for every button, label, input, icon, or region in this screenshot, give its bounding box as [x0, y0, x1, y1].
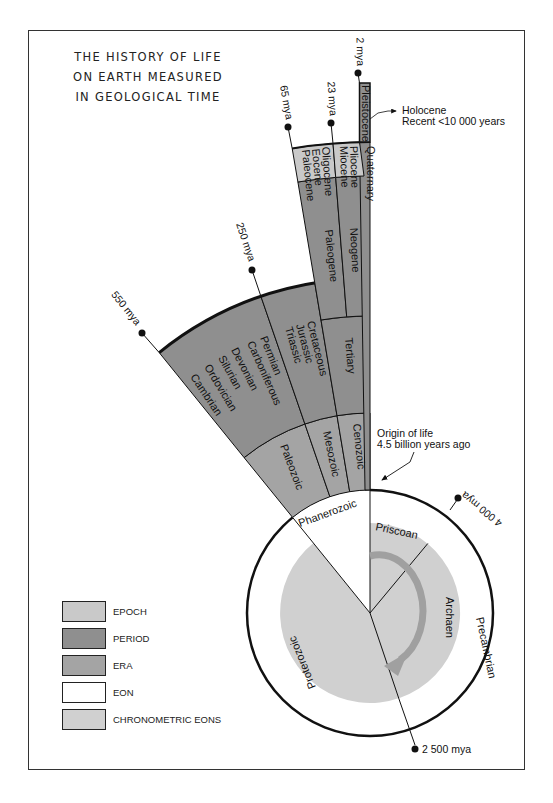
label-miocene: Miocene	[338, 146, 351, 188]
marker-dot-23	[328, 120, 335, 127]
marker-dot-2500	[412, 746, 419, 753]
label-23-mya: 23 mya	[326, 81, 340, 116]
label-2500-mya: 2 500 mya	[422, 743, 471, 755]
label-quaternary: Quaternary	[365, 146, 377, 202]
legend-item-era: ERA	[62, 652, 221, 679]
legend-swatch-eon	[62, 682, 106, 703]
marker-dot-250	[249, 267, 256, 274]
legend-label-epoch: EPOCH	[113, 606, 147, 617]
label-65-mya: 65 mya	[278, 84, 296, 120]
label-4000-mya: 4 000 mya	[459, 489, 505, 529]
legend-item-chronometric-eons: CHRONOMETRIC EONS	[62, 706, 221, 733]
label-550-mya: 550 mya	[109, 288, 144, 327]
label-neogene: Neogene	[348, 227, 362, 272]
origin-of-life-note: 4.5 billion years ago	[377, 438, 471, 450]
marker-dot-2	[355, 70, 362, 77]
legend: EPOCH PERIOD ERA EON CHRONOMETRIC EONS	[62, 598, 221, 733]
holocene-note: Recent <10 000 years	[402, 115, 505, 127]
legend-swatch-chronometric-eons	[62, 709, 106, 730]
legend-label-period: PERIOD	[113, 633, 149, 644]
legend-item-eon: EON	[62, 679, 221, 706]
legend-item-epoch: EPOCH	[62, 598, 221, 625]
legend-label-eon: EON	[113, 687, 134, 698]
marker-dot-550	[139, 330, 146, 337]
marker-dot-65	[285, 124, 292, 131]
legend-label-era: ERA	[113, 660, 133, 671]
legend-swatch-period	[62, 628, 106, 649]
origin-arrow-icon	[382, 452, 414, 480]
tick-4000	[450, 500, 457, 510]
label-archaen: Archaen	[444, 597, 456, 638]
tick-250	[252, 270, 261, 296]
tick-550	[142, 333, 159, 353]
label-2-mya: 2 mya	[355, 37, 367, 66]
legend-swatch-epoch	[62, 601, 106, 622]
legend-swatch-era	[62, 655, 106, 676]
legend-label-chronometric-eons: CHRONOMETRIC EONS	[113, 714, 221, 725]
legend-item-period: PERIOD	[62, 625, 221, 652]
label-pleistocene: Pleistocene	[360, 85, 372, 142]
label-250-mya: 250 mya	[234, 221, 259, 263]
